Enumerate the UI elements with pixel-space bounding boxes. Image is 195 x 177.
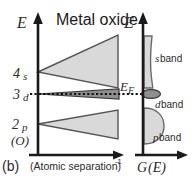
dos-p-band-label-main: p [152,131,159,143]
dos-d-band-label-rest: band [161,99,183,110]
dos-p-band-label-rest: band [159,132,181,143]
level-label-4s-sub: s [23,70,27,82]
dos-s-band-label-rest: band [160,53,182,64]
level-label-2p-main: 2 [12,117,19,132]
dos-s-band-label: s band [155,52,182,64]
fermi-level-label-sub: F [127,85,135,96]
panel-label: (b) [2,158,19,174]
right-x-axis-label-main: G [137,160,147,175]
level-label-2p: 2 p (O) [11,117,29,148]
left-x-axis-label: (Atomic separation) -1 [30,157,122,172]
dos-d-band-label: d band [155,98,183,110]
dos-s-band-shape [144,36,153,88]
dos-s-band-label-main: s [155,52,159,64]
right-x-axis-label-arg: (E) [148,160,166,176]
level-label-4s: 4 s [13,66,27,82]
band-2p-wedge [38,110,118,139]
band-diagram-figure: Metal oxide E E 4 s 3 d 2 p (O) E F (b) … [0,0,195,177]
level-label-4s-main: 4 [13,66,20,81]
level-label-3d-sub: d [23,91,29,103]
level-label-3d: 3 d [12,87,29,103]
left-energy-axis-label: E [16,14,27,31]
level-label-2p-sub: p [21,121,28,133]
left-x-axis [29,150,124,159]
left-energy-axis [33,12,43,155]
fermi-level-label-main: E [119,79,128,94]
right-x-axis-label: G (E) [137,160,166,176]
level-label-3d-main: 3 [12,87,20,102]
fermi-level-label: E F [119,79,135,96]
right-energy-axis-label: E [123,14,134,31]
left-x-axis-label-exponent: -1 [115,157,122,166]
left-x-axis-label-main: (Atomic separation) [30,160,121,172]
level-label-2p-species: (O) [11,133,29,148]
dos-p-band-label: p band [152,131,181,143]
band-4s-wedge [38,35,118,88]
